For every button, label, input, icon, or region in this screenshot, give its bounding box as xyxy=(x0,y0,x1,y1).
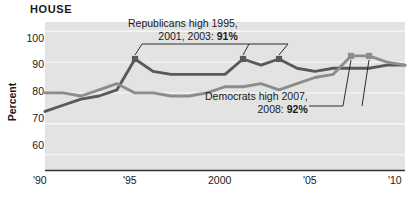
annotation-democrats-line2: 2008: 92% xyxy=(205,103,308,116)
house-approval-chart: HOUSE Percent 100 90 80 70 60 '90 '95 20… xyxy=(0,0,417,204)
annotation-republicans-line2: 2001, 2003: 91% xyxy=(128,30,238,43)
annotation-democrats-high: Democrats high 2007, 2008: 92% xyxy=(205,90,308,115)
marker-democrats-2008 xyxy=(366,53,372,59)
marker-republicans-1995 xyxy=(132,56,138,62)
marker-democrats-2007 xyxy=(348,53,354,59)
annotation-republicans-value: 91% xyxy=(217,30,238,42)
marker-republicans-2001 xyxy=(240,56,246,62)
annotation-democrats-value: 92% xyxy=(287,103,308,115)
annotation-democrats-prefix: 2008: xyxy=(258,103,287,115)
marker-republicans-2003 xyxy=(276,56,282,62)
annotation-republicans-high: Republicans high 1995, 2001, 2003: 91% xyxy=(128,17,238,42)
annotation-democrats-line1: Democrats high 2007, xyxy=(205,90,308,103)
annotation-republicans-prefix: 2001, 2003: xyxy=(158,30,216,42)
annotation-republicans-line1: Republicans high 1995, xyxy=(128,17,238,30)
